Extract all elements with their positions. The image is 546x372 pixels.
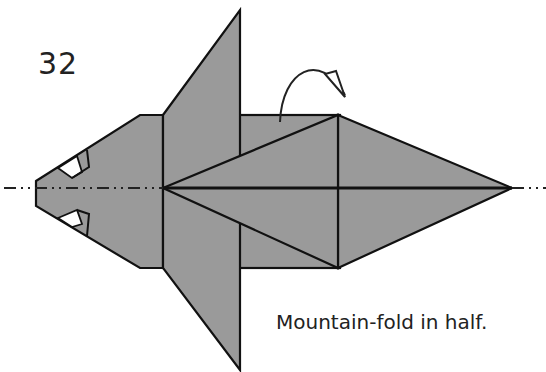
instruction-caption: Mountain-fold in half.	[276, 310, 487, 334]
arrow-head	[325, 71, 345, 97]
tail-point	[338, 115, 512, 268]
head-section	[36, 115, 163, 268]
